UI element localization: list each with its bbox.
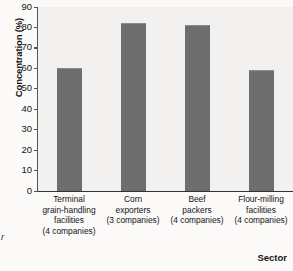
y-tick-label: 60	[21, 62, 32, 73]
y-tick-label: 80	[21, 21, 32, 32]
y-tick-label: 90	[21, 1, 32, 12]
x-tick-label-line: packers	[166, 205, 228, 216]
y-tick-label: 50	[21, 82, 32, 93]
x-tick-label-line: grain-handling	[38, 205, 100, 216]
bar	[57, 68, 82, 191]
x-tick-label-line: Flour-milling	[230, 194, 292, 205]
y-tick-label: 70	[21, 41, 32, 52]
y-tick-label: 30	[21, 123, 32, 134]
bar-chart-figure: Concentration (%) 0102030405060708090 Te…	[0, 0, 293, 271]
x-tick-label-line: Beef	[166, 194, 228, 205]
x-tick-label-line: (3 companies)	[102, 215, 164, 226]
x-tick-label-line: facilities	[38, 215, 100, 226]
bar-slot	[166, 7, 230, 191]
x-tick-label: Flour-millingfacilities(4 companies)	[229, 194, 293, 236]
x-tick-label: Terminalgrain-handlingfacilities(4 compa…	[37, 194, 101, 236]
bar-slot	[38, 7, 102, 191]
bar	[249, 70, 274, 191]
y-axis-title: Concentration (%)	[13, 0, 24, 118]
x-tick-label-line: (4 companies)	[38, 226, 100, 237]
x-tick-label-line: facilities	[230, 205, 292, 216]
plot-area: 0102030405060708090	[37, 7, 293, 192]
bar	[121, 23, 146, 191]
x-tick-label: Cornexporters(3 companies)	[101, 194, 165, 236]
margin-cutoff-glyph: r	[1, 231, 4, 242]
y-tick-label: 20	[21, 144, 32, 155]
y-tick-label: 10	[21, 164, 32, 175]
bar	[185, 25, 210, 191]
x-tick-label-line: Corn	[102, 194, 164, 205]
x-axis-tick-labels: Terminalgrain-handlingfacilities(4 compa…	[37, 194, 293, 236]
x-tick-label: Beefpackers(4 companies)	[165, 194, 229, 236]
x-tick-label-line: (4 companies)	[230, 215, 292, 226]
x-tick-label-line: Terminal	[38, 194, 100, 205]
bar-slot	[102, 7, 166, 191]
x-tick-label-line: (4 companies)	[166, 215, 228, 226]
bar-slot	[229, 7, 293, 191]
y-tick-label: 0	[27, 185, 32, 196]
y-tick-label: 40	[21, 103, 32, 114]
x-axis-title: Sector	[257, 252, 287, 263]
bar-series	[38, 7, 293, 191]
x-tick-label-line: exporters	[102, 205, 164, 216]
